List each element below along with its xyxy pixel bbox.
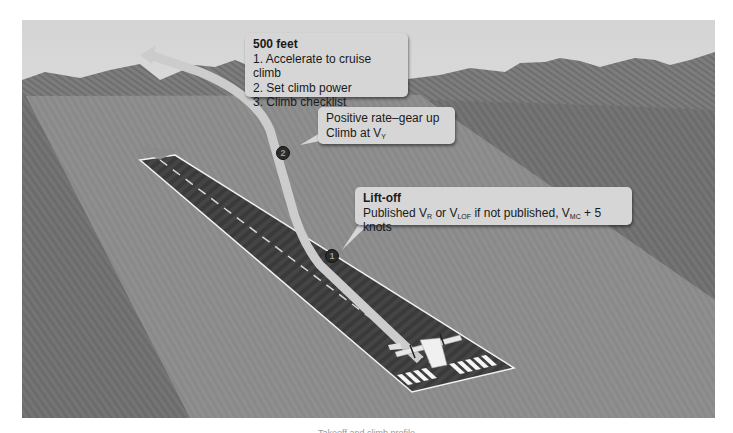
callout-line: Published VR or VLOF if not published, V… <box>363 206 624 235</box>
callout-lift-off: Lift-off Published VR or VLOF if not pub… <box>355 187 632 225</box>
callout-500-feet: 500 feet 1. Accelerate to cruise climb 2… <box>245 33 408 97</box>
marker-1: 1 <box>325 249 339 263</box>
callout-title: Lift-off <box>363 191 624 206</box>
callout-line: Climb at VY <box>326 126 447 141</box>
marker-2: 2 <box>276 146 290 160</box>
callout-positive-rate: Positive rate–gear up Climb at VY <box>318 107 455 144</box>
callout-title: 500 feet <box>253 37 400 52</box>
checklist-item: 1. Accelerate to cruise climb <box>253 52 400 81</box>
figure-caption: Takeoff and climb profile <box>0 424 733 433</box>
callout-line: Positive rate–gear up <box>326 111 447 126</box>
checklist-item: 2. Set climb power <box>253 81 400 96</box>
